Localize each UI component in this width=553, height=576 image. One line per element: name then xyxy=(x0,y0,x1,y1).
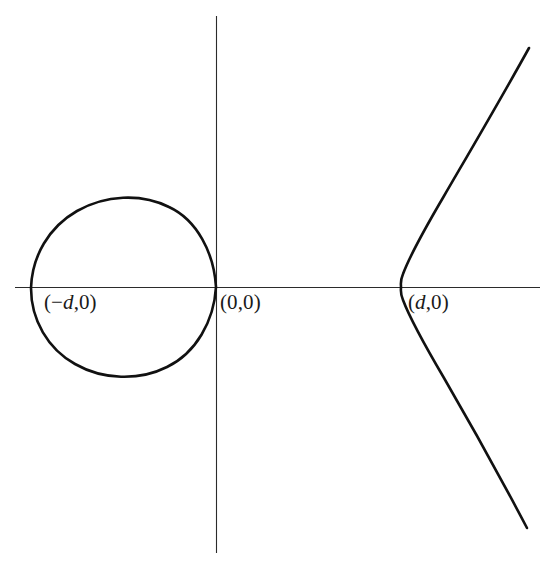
variable-d: d xyxy=(63,290,74,314)
coordinate-diagram xyxy=(0,0,553,576)
comma-zero: ,0) xyxy=(74,290,97,314)
point-label-negative-d: (−d,0) xyxy=(44,292,97,313)
point-label-origin: (0,0) xyxy=(220,292,261,313)
point-label-positive-d: (d,0) xyxy=(408,292,449,313)
math-figure: (−d,0) (0,0) (d,0) xyxy=(0,0,553,576)
comma-zero: ,0) xyxy=(426,290,449,314)
variable-d: d xyxy=(415,290,426,314)
minus-sign: − xyxy=(51,290,63,314)
